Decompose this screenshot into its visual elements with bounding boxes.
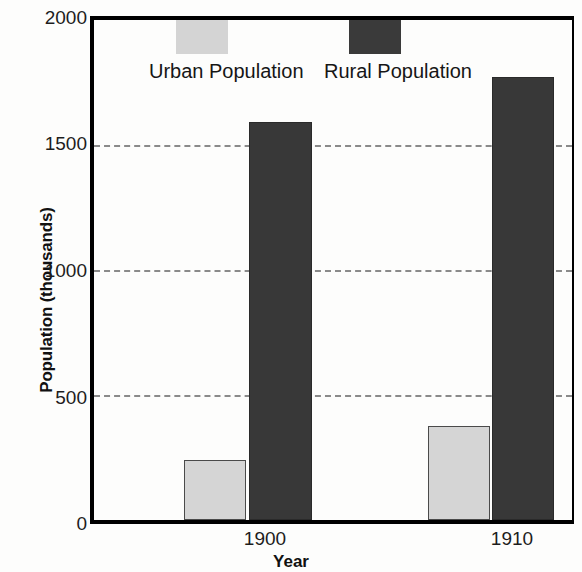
y-axis-tick-labels: 2000 1500 1000 500 0	[24, 0, 87, 572]
bar-1900-urban[interactable]	[184, 460, 246, 520]
x-tick-1900: 1900	[215, 528, 315, 550]
y-tick-1000: 1000	[27, 261, 87, 280]
legend-label-rural: Rural Population	[324, 60, 472, 83]
y-tick-1500: 1500	[27, 134, 87, 153]
plot-inner: Urban Population Rural Population	[94, 20, 572, 520]
bar-1910-urban[interactable]	[428, 426, 490, 520]
legend-label-urban: Urban Population	[149, 60, 304, 83]
x-axis-title: Year	[0, 552, 582, 572]
legend-swatch-urban-icon	[176, 20, 228, 54]
y-tick-500: 500	[27, 388, 87, 407]
plot-area: Urban Population Rural Population	[90, 16, 574, 524]
bar-1910-rural[interactable]	[492, 77, 554, 520]
x-tick-1910: 1910	[462, 528, 562, 550]
y-tick-2000: 2000	[27, 8, 87, 27]
bar-chart-figure: Population (thousands) 2000 1500 1000 50…	[0, 0, 582, 572]
legend-swatch-rural-icon	[349, 20, 401, 54]
y-tick-0: 0	[27, 514, 87, 533]
bar-1900-rural[interactable]	[249, 122, 312, 520]
